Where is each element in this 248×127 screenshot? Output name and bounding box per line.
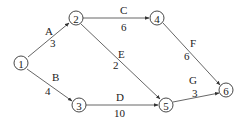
duration-label-C: 6	[121, 21, 127, 33]
node-6: 6	[219, 83, 233, 97]
node-5: 5	[159, 98, 173, 112]
duration-label-F: 6	[184, 50, 190, 62]
node-4-label: 4	[154, 13, 160, 25]
network-diagram: A 3 B 4 C 6 D 10 E 2 F 6 G 3 1 2 3 4 5 6	[0, 0, 248, 127]
node-2: 2	[69, 11, 83, 25]
node-3-label: 3	[76, 100, 82, 112]
node-2-label: 2	[73, 13, 79, 25]
duration-label-G: 3	[192, 87, 198, 99]
node-1-label: 1	[18, 58, 24, 70]
node-5-label: 5	[163, 100, 169, 112]
duration-label-E: 2	[113, 59, 119, 71]
activity-label-D: D	[116, 91, 124, 103]
duration-label-D: 10	[114, 107, 126, 119]
edge-E	[81, 24, 160, 99]
activity-label-C: C	[120, 4, 127, 16]
duration-label-A: 3	[50, 37, 56, 49]
activity-label-A: A	[45, 25, 53, 37]
activity-label-B: B	[52, 71, 59, 83]
activity-label-E: E	[118, 48, 125, 60]
node-3: 3	[72, 98, 86, 112]
activity-label-G: G	[189, 74, 197, 86]
activity-label-F: F	[190, 37, 196, 49]
node-6-label: 6	[223, 85, 229, 97]
node-1: 1	[14, 56, 28, 70]
node-4: 4	[150, 11, 164, 25]
duration-label-B: 4	[45, 85, 51, 97]
